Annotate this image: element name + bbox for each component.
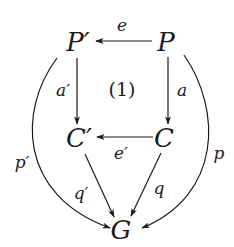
object-c: C bbox=[154, 123, 174, 153]
object-p: P bbox=[156, 27, 175, 57]
arrow-label-p: p bbox=[214, 143, 225, 163]
arrow-label-e: e bbox=[117, 15, 127, 35]
object-p-prime: P′ bbox=[65, 27, 89, 57]
arrow-label-a: a bbox=[177, 80, 187, 100]
arrow-p-curve bbox=[142, 55, 209, 228]
arrow-label-e-prime: e′ bbox=[114, 143, 128, 163]
arrow-q-prime bbox=[85, 154, 114, 217]
region-label-1: (1) bbox=[109, 78, 136, 100]
commutative-diagram: P′ P C′ C G (1) e a′ a e′ q′ q p′ p bbox=[0, 0, 234, 247]
arrow-label-a-prime: a′ bbox=[56, 80, 70, 100]
arrow-label-p-prime: p′ bbox=[15, 152, 30, 172]
object-g: G bbox=[111, 215, 132, 245]
arrow-label-q-prime: q′ bbox=[74, 183, 89, 203]
object-c-prime: C′ bbox=[66, 123, 92, 153]
arrow-label-q: q bbox=[154, 178, 165, 198]
